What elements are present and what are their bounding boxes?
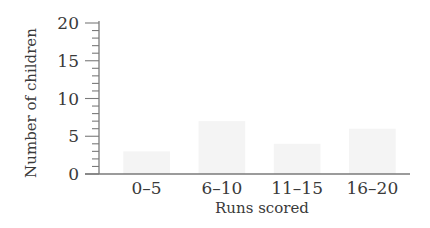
bar: [349, 129, 396, 174]
x-tick-label: 16–20: [346, 178, 398, 198]
bar: [274, 144, 321, 174]
x-axis: 0–56–1011–1516–20: [85, 174, 410, 198]
bars-group: [123, 121, 395, 174]
x-tick-label: 11–15: [271, 178, 323, 198]
y-tick-label: 15: [57, 51, 79, 71]
x-tick-label: 0–5: [132, 178, 162, 198]
y-tick-label: 20: [57, 13, 79, 33]
y-tick-label: 0: [68, 164, 79, 184]
y-tick-label: 5: [68, 126, 79, 146]
x-axis-title: Runs scored: [215, 199, 309, 217]
y-axis-title: Number of children: [22, 28, 40, 178]
bar-chart: Number of children 05101520 0–56–1011–15…: [0, 0, 430, 228]
bar: [123, 151, 170, 174]
x-tick-label: 6–10: [201, 178, 242, 198]
y-axis: 05101520: [57, 13, 99, 184]
y-tick-label: 10: [57, 89, 79, 109]
bar: [199, 121, 246, 174]
